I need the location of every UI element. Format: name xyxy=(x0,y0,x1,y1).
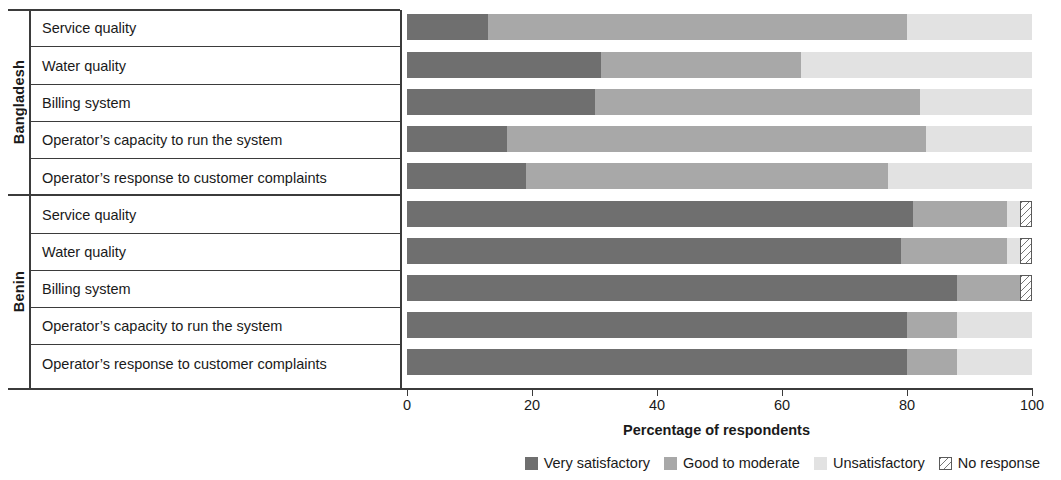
row-label: Operator’s response to customer complain… xyxy=(30,159,400,196)
bar-segment-very-satisfactory xyxy=(407,275,957,301)
stacked-bar xyxy=(407,349,1032,375)
stacked-bar xyxy=(407,52,1032,78)
bottom-rule xyxy=(8,388,400,390)
legend-label: Very satisfactory xyxy=(544,455,650,471)
legend-label: No response xyxy=(958,455,1040,471)
row-label-text: Service quality xyxy=(42,20,136,36)
bar-segment-good-to-moderate xyxy=(907,349,957,375)
bar-segment-unsatisfactory xyxy=(888,163,1032,189)
legend-swatch-icon xyxy=(525,457,538,470)
row-label: Water quality xyxy=(30,234,400,271)
x-tick-mark xyxy=(532,389,533,396)
bar-segment-very-satisfactory xyxy=(407,312,907,338)
stacked-bar xyxy=(407,163,1032,189)
row-label-text: Water quality xyxy=(42,244,126,260)
bar-segment-very-satisfactory xyxy=(407,163,526,189)
x-tick-label: 100 xyxy=(1002,397,1061,413)
stacked-bar xyxy=(407,89,1032,115)
bar-segment-good-to-moderate xyxy=(957,275,1020,301)
x-axis-title: Percentage of respondents xyxy=(400,422,1033,438)
x-tick-label: 20 xyxy=(502,397,562,413)
bar-segment-very-satisfactory xyxy=(407,126,507,152)
legend-item[interactable]: Unsatisfactory xyxy=(814,455,925,471)
row-label-text: Operator’s capacity to run the system xyxy=(42,318,282,334)
row-label-text: Operator’s capacity to run the system xyxy=(42,132,282,148)
bar-segment-good-to-moderate xyxy=(507,126,926,152)
x-axis-line xyxy=(400,388,1033,390)
bar-segment-unsatisfactory xyxy=(957,349,1032,375)
legend-label: Unsatisfactory xyxy=(833,455,925,471)
x-tick-label: 80 xyxy=(877,397,937,413)
x-tick-mark xyxy=(407,389,408,396)
bar-segment-very-satisfactory xyxy=(407,238,901,264)
legend-item[interactable]: Very satisfactory xyxy=(525,455,650,471)
bar-segment-no-response xyxy=(1020,201,1033,227)
bar-segment-no-response xyxy=(1020,275,1033,301)
bar-segment-good-to-moderate xyxy=(526,163,889,189)
bar-segment-unsatisfactory xyxy=(1007,201,1020,227)
row-label-text: Billing system xyxy=(42,95,131,111)
stacked-bar xyxy=(407,275,1032,301)
row-label-text: Service quality xyxy=(42,207,136,223)
row-label: Service quality xyxy=(30,197,400,234)
group-label-benin: Benin xyxy=(8,196,30,388)
bar-segment-unsatisfactory xyxy=(1007,238,1020,264)
legend-label: Good to moderate xyxy=(683,455,800,471)
bar-segment-very-satisfactory xyxy=(407,14,488,40)
row-label: Service quality xyxy=(30,10,400,47)
x-tick-mark xyxy=(657,389,658,396)
row-label-text: Billing system xyxy=(42,281,131,297)
row-label: Water quality xyxy=(30,48,400,85)
stacked-bar-chart: Bangladesh Benin Service qualityWater qu… xyxy=(0,0,1061,480)
bar-segment-unsatisfactory xyxy=(907,14,1032,40)
row-label: Operator’s capacity to run the system xyxy=(30,308,400,345)
row-label-text: Operator’s response to customer complain… xyxy=(42,170,327,186)
stacked-bar xyxy=(407,126,1032,152)
bar-segment-good-to-moderate xyxy=(488,14,907,40)
stacked-bar xyxy=(407,238,1032,264)
row-label: Operator’s response to customer complain… xyxy=(30,345,400,382)
legend-item[interactable]: No response xyxy=(939,455,1040,471)
x-tick-mark xyxy=(1032,389,1033,396)
chart-legend: Very satisfactoryGood to moderateUnsatis… xyxy=(400,455,1040,471)
row-label-text: Water quality xyxy=(42,58,126,74)
legend-item[interactable]: Good to moderate xyxy=(664,455,800,471)
bar-segment-good-to-moderate xyxy=(901,238,1007,264)
x-tick-label: 60 xyxy=(752,397,812,413)
bar-segment-no-response xyxy=(1020,238,1033,264)
x-tick-mark xyxy=(907,389,908,396)
bar-segment-very-satisfactory xyxy=(407,201,913,227)
group-label-bangladesh: Bangladesh xyxy=(8,10,30,194)
stacked-bar xyxy=(407,312,1032,338)
legend-swatch-icon xyxy=(664,457,677,470)
x-tick-label: 0 xyxy=(377,397,437,413)
category-axis-line xyxy=(400,10,402,390)
bar-segment-unsatisfactory xyxy=(926,126,1032,152)
group-label-bangladesh-text: Bangladesh xyxy=(11,60,27,144)
group-label-benin-text: Benin xyxy=(11,271,27,312)
row-label: Billing system xyxy=(30,85,400,122)
bar-segment-unsatisfactory xyxy=(920,89,1033,115)
bar-segment-good-to-moderate xyxy=(913,201,1007,227)
row-label: Operator’s capacity to run the system xyxy=(30,122,400,159)
legend-swatch-icon xyxy=(939,457,952,470)
stacked-bar xyxy=(407,201,1032,227)
bar-segment-unsatisfactory xyxy=(957,312,1032,338)
bar-segment-good-to-moderate xyxy=(601,52,801,78)
bar-segment-good-to-moderate xyxy=(595,89,920,115)
plot-area: Bangladesh Benin Service qualityWater qu… xyxy=(0,0,1061,390)
x-tick-mark xyxy=(782,389,783,396)
row-label-text: Operator’s response to customer complain… xyxy=(42,356,327,372)
legend-swatch-icon xyxy=(814,457,827,470)
bar-segment-very-satisfactory xyxy=(407,349,907,375)
x-tick-label: 40 xyxy=(627,397,687,413)
bar-segment-good-to-moderate xyxy=(907,312,957,338)
stacked-bar xyxy=(407,14,1032,40)
bar-segment-unsatisfactory xyxy=(801,52,1032,78)
bar-segment-very-satisfactory xyxy=(407,52,601,78)
row-label: Billing system xyxy=(30,271,400,308)
bar-segment-very-satisfactory xyxy=(407,89,595,115)
